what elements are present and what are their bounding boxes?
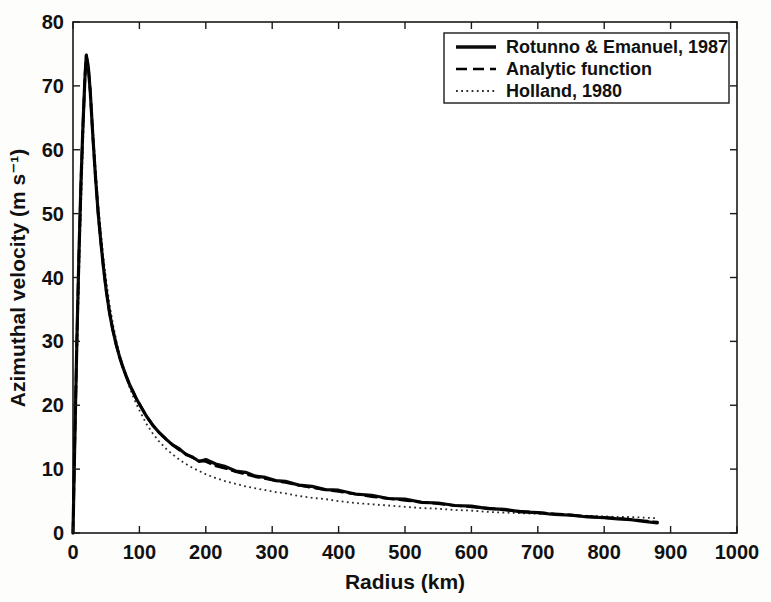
azimuthal-velocity-chart: 0100200300400500600700800900100001020304… [0, 0, 771, 602]
x-tick-label: 800 [588, 541, 621, 563]
legend-item-label: Rotunno & Emanuel, 1987 [506, 37, 728, 57]
x-tick-label: 1000 [715, 541, 760, 563]
y-tick-label: 50 [42, 203, 64, 225]
y-tick-label: 80 [42, 11, 64, 33]
x-tick-label: 600 [455, 541, 488, 563]
x-tick-label: 900 [654, 541, 687, 563]
y-tick-label: 30 [42, 330, 64, 352]
x-tick-label: 300 [256, 541, 289, 563]
x-tick-label: 100 [123, 541, 156, 563]
x-axis-title: Radius (km) [345, 570, 465, 593]
y-tick-label: 20 [42, 394, 64, 416]
y-tick-label: 40 [42, 267, 64, 289]
x-tick-label: 500 [388, 541, 421, 563]
y-tick-label: 0 [53, 522, 64, 544]
figure-page: 0100200300400500600700800900100001020304… [0, 0, 771, 602]
legend-item-label: Holland, 1980 [506, 81, 622, 101]
y-tick-label: 70 [42, 75, 64, 97]
legend: Rotunno & Emanuel, 1987Analytic function… [444, 33, 729, 103]
x-tick-label: 0 [67, 541, 78, 563]
y-tick-label: 60 [42, 139, 64, 161]
x-tick-label: 200 [189, 541, 222, 563]
y-axis-title: Azimuthal velocity (m s⁻¹) [6, 149, 29, 407]
x-tick-label: 400 [322, 541, 355, 563]
x-tick-label: 700 [521, 541, 554, 563]
y-tick-label: 10 [42, 458, 64, 480]
legend-item-label: Analytic function [506, 59, 652, 79]
